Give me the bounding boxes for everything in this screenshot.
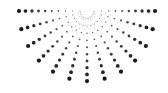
sunburst-dot — [105, 21, 106, 22]
sunburst-dot — [75, 51, 78, 54]
sunburst-fine-dot — [81, 23, 82, 24]
sunburst-fine-dot — [83, 34, 84, 35]
sunburst-dot — [82, 16, 83, 17]
sunburst-dot — [66, 31, 68, 33]
sunburst-dot — [128, 35, 131, 38]
sunburst-dot — [72, 10, 73, 11]
sunburst-fine-dot — [79, 16, 80, 17]
sunburst-dot — [138, 41, 142, 45]
sunburst-dot — [51, 70, 55, 74]
sunburst-fine-dot — [100, 12, 101, 13]
sunburst-fine-dot — [84, 29, 85, 30]
sunburst-dot — [144, 44, 148, 48]
sunburst-dot-graphic — [0, 0, 168, 93]
sunburst-dot — [52, 19, 54, 21]
sunburst-dot — [100, 36, 102, 38]
sunburst-dot — [114, 18, 116, 20]
sunburst-dot — [145, 26, 149, 30]
sunburst-dot — [38, 38, 41, 41]
sunburst-fine-dot — [72, 30, 73, 31]
sunburst-dot — [93, 14, 94, 15]
sunburst-fine-dot — [85, 24, 86, 25]
sunburst-dot — [94, 11, 95, 12]
sunburst-fine-dot — [89, 29, 90, 30]
sunburst-fine-dot — [68, 13, 69, 14]
sunburst-dot — [81, 32, 82, 33]
sunburst-fine-dot — [109, 20, 110, 21]
sunburst-fine-dot — [95, 14, 96, 15]
sunburst-fine-dot — [94, 16, 95, 17]
sunburst-fine-dot — [98, 19, 99, 20]
sunburst-dot — [86, 25, 87, 26]
sunburst-dot — [108, 10, 109, 11]
sunburst-dot — [97, 30, 98, 31]
sunburst-dot — [80, 12, 81, 13]
sunburst-dot — [45, 21, 48, 24]
sunburst-dot — [86, 46, 88, 48]
sunburst-dot — [101, 10, 102, 11]
sunburst-dot — [100, 64, 103, 67]
sunburst-fine-dot — [74, 16, 75, 17]
sunburst-dot — [32, 24, 35, 27]
sunburst-dot — [133, 38, 136, 41]
sunburst-dot — [85, 66, 88, 69]
sunburst-dot — [90, 17, 91, 18]
sunburst-fine-dot — [106, 25, 107, 26]
sunburst-dot — [124, 49, 127, 52]
sunburst-fine-dot — [78, 12, 79, 13]
sunburst-dot — [126, 21, 129, 24]
sunburst-dot — [80, 11, 81, 12]
sunburst-dot — [54, 64, 58, 68]
sunburst-dot — [69, 70, 73, 74]
sunburst-fine-dot — [78, 14, 79, 15]
sunburst-dot — [49, 31, 52, 34]
sunburst-dot — [93, 38, 95, 40]
sunburst-dot — [99, 18, 100, 19]
sunburst-dot — [128, 10, 131, 13]
sunburst-fine-dot — [81, 18, 82, 19]
sunburst-fine-dot — [88, 24, 89, 25]
sunburst-dot — [26, 44, 30, 48]
sunburst-dot — [61, 25, 63, 27]
sunburst-dot — [119, 70, 123, 74]
sunburst-dot — [61, 53, 64, 56]
sunburst-dot — [113, 58, 116, 61]
sunburst-dot — [133, 58, 137, 62]
sunburst-dot — [56, 40, 59, 43]
sunburst-fine-dot — [94, 28, 95, 29]
sunburst-dot — [59, 18, 61, 20]
sunburst-dot — [134, 10, 137, 13]
sunburst-dot — [132, 22, 135, 25]
sunburst-dot — [90, 25, 91, 26]
sunburst-dot — [72, 14, 73, 15]
sunburst-fine-dot — [69, 18, 70, 19]
sunburst-dot — [116, 64, 120, 68]
sunburst-dot — [37, 10, 40, 13]
sunburst-dot — [26, 26, 30, 30]
sunburst-dot — [85, 73, 89, 77]
sunburst-dot — [97, 51, 100, 54]
sunburst-dot — [91, 16, 92, 17]
sunburst-dot — [86, 39, 88, 41]
sunburst-dot — [139, 24, 142, 27]
sunburst-fine-dot — [104, 18, 105, 19]
sunburst-fine-dot — [110, 14, 111, 15]
sunburst-dot — [77, 45, 79, 47]
sunburst-dot — [110, 53, 113, 56]
sunburst-dot — [55, 28, 57, 30]
sunburst-dot — [73, 58, 76, 61]
sunburst-dot — [65, 10, 66, 11]
sunburst-fine-dot — [75, 26, 76, 27]
sunburst-dot — [111, 36, 113, 38]
sunburst-dot — [94, 23, 95, 24]
sunburst-fine-dot — [78, 22, 79, 23]
sunburst-dot — [61, 36, 63, 38]
sunburst-dot — [116, 28, 118, 30]
sunburst-dot — [95, 45, 97, 47]
sunburst-dot — [67, 77, 71, 81]
sunburst-dot — [51, 45, 54, 48]
sunburst-dot — [83, 17, 84, 18]
sunburst-fine-dot — [102, 22, 103, 23]
sunburst-fine-dot — [77, 33, 78, 34]
sunburst-fine-dot — [64, 20, 65, 21]
